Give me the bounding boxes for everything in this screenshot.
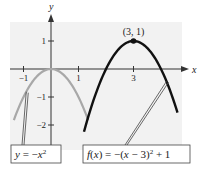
equation-part: − 3): [129, 148, 150, 161]
y-axis-arrow: [48, 14, 54, 22]
x-tick-label: −1: [19, 73, 29, 83]
x-axis-label: x: [191, 64, 197, 75]
vertex-point: [131, 38, 137, 44]
vertex-label: (3, 1): [123, 26, 145, 38]
equation-part: 2: [43, 148, 47, 156]
x-tick-label: 3: [131, 73, 136, 83]
equation-part: ) = −(: [99, 148, 125, 161]
equation-part: = −: [20, 148, 38, 160]
equation-part: + 1: [153, 148, 170, 160]
callout-equation: y = −x2: [14, 148, 47, 160]
y-tick-label: −1: [36, 92, 46, 102]
callout-equation: f(x) = −(x − 3)2 + 1: [87, 148, 170, 161]
x-axis-arrow: [181, 66, 189, 72]
plot-background: [10, 22, 182, 150]
x-tick-label: 1: [76, 73, 81, 83]
y-axis-label: y: [48, 1, 54, 12]
y-tick-label: −2: [36, 120, 46, 130]
chart: xy −1131−1−2 (3, 1) y = −x2f(x) = −(x − …: [0, 0, 202, 169]
y-tick-label: 1: [42, 36, 47, 46]
